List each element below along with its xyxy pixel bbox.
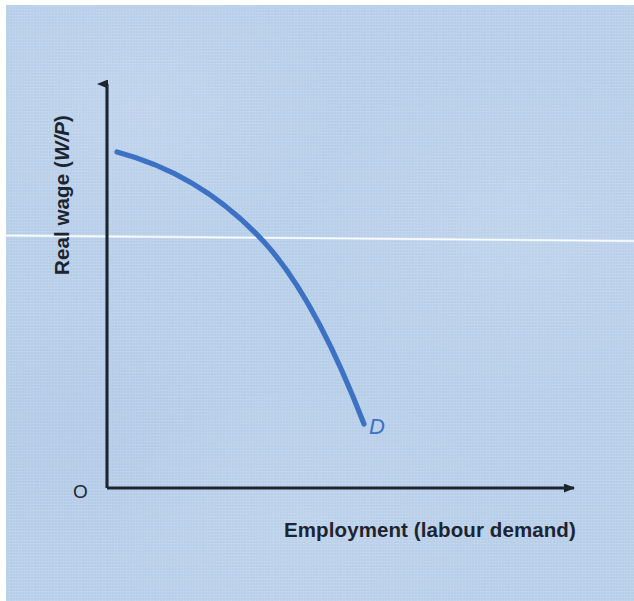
- scan-artifact-line-soft: [6, 236, 634, 242]
- origin-label: O: [73, 481, 88, 503]
- y-axis-label-variable: W/P: [50, 122, 73, 161]
- y-axis-label: Real wage (W/P): [50, 45, 74, 345]
- chart-canvas: [0, 0, 634, 601]
- x-axis-label: Employment (labour demand): [284, 518, 576, 542]
- y-axis-label-prefix: Real wage (: [50, 161, 73, 275]
- demand-curve-label: D: [369, 414, 385, 440]
- y-axis-label-suffix: ): [50, 115, 73, 122]
- labour-demand-curve: [117, 152, 364, 424]
- labour-demand-figure: Real wage (W/P) Employment (labour deman…: [0, 0, 634, 601]
